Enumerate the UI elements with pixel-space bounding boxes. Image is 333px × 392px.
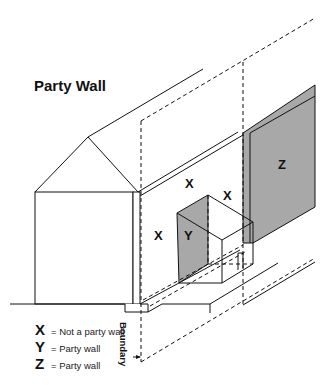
label-y: Y <box>184 228 193 243</box>
legend-text: = Party wall <box>51 343 100 354</box>
wall-post <box>133 192 140 304</box>
legend-key: X <box>35 321 51 338</box>
label-x-left: X <box>154 228 163 243</box>
neighbour-house <box>35 192 133 304</box>
label-z: Z <box>278 157 286 172</box>
legend: X = Not a party wall Y = Party wall Z = … <box>35 321 125 372</box>
legend-key: Y <box>35 338 51 355</box>
label-x-right: X <box>223 188 232 203</box>
legend-item-x: X = Not a party wall <box>35 321 125 338</box>
diagram-title: Party Wall <box>34 77 106 94</box>
legend-text: = Party wall <box>51 360 100 371</box>
label-x-upper: X <box>185 176 194 191</box>
legend-item-z: Z = Party wall <box>35 355 125 372</box>
legend-key: Z <box>35 355 51 372</box>
legend-item-y: Y = Party wall <box>35 338 125 355</box>
legend-text: = Not a party wall <box>51 326 125 337</box>
